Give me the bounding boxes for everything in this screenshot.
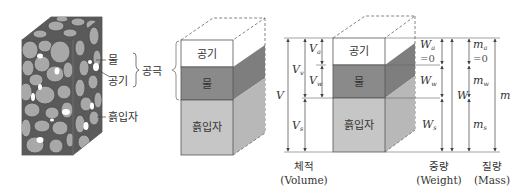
phase-diagram: 공기 물 흙입자 V Vv Va Vw Vs bbox=[276, 16, 510, 186]
volume-voids-symbol: Vv bbox=[292, 63, 304, 77]
weight-total-symbol: W bbox=[457, 89, 470, 102]
soil-sample-block bbox=[20, 16, 102, 155]
weight-caption-kr: 중량 bbox=[429, 160, 449, 172]
weight-air-value: =0 bbox=[420, 53, 435, 64]
label-air: 공기 bbox=[108, 75, 128, 88]
mass-caption-en: (Mass) bbox=[474, 174, 510, 186]
volume-total-symbol: V bbox=[276, 89, 285, 102]
diagram-solids-label: 흙입자 bbox=[344, 119, 374, 132]
volume-caption-en: (Volume) bbox=[280, 174, 327, 186]
weight-solids-symbol: Ws bbox=[422, 118, 437, 132]
label-water: 물 bbox=[108, 54, 118, 67]
pore-brace bbox=[133, 53, 139, 87]
mass-air-symbol: ma bbox=[473, 38, 487, 52]
diagram-air-label: 공기 bbox=[349, 45, 369, 58]
mass-air-value: =0 bbox=[473, 53, 488, 64]
weight-dimensions bbox=[442, 39, 452, 151]
weight-water-symbol: Ww bbox=[420, 74, 437, 88]
weight-caption-en: (Weight) bbox=[416, 174, 461, 186]
phase-block: 공기 물 흙입자 bbox=[181, 18, 265, 155]
volume-solids-symbol: Vs bbox=[292, 119, 304, 133]
weight-air-symbol: Wa bbox=[420, 38, 435, 52]
mass-water-symbol: mw bbox=[473, 74, 489, 88]
phase-solids-label: 흙입자 bbox=[192, 121, 222, 134]
volume-water-symbol: Vw bbox=[309, 74, 323, 88]
soil-phase-diagram: 물 공기 공극 흙입자 공기 물 흙입자 공기 물 흙 bbox=[0, 0, 519, 192]
mass-total-symbol: m bbox=[500, 89, 510, 102]
label-soil-particle: 흙입자 bbox=[108, 111, 138, 124]
volume-air-symbol: Va bbox=[309, 42, 321, 56]
label-pore: 공극 bbox=[142, 65, 162, 78]
phase-water-label: 물 bbox=[202, 78, 212, 91]
diagram-water-label: 물 bbox=[354, 76, 364, 89]
mass-solids-symbol: ms bbox=[473, 118, 487, 132]
pore-brace-large bbox=[172, 41, 179, 100]
phase-air-label: 공기 bbox=[197, 48, 217, 61]
soil-sample-labels: 물 공기 공극 흙입자 bbox=[96, 53, 162, 124]
mass-caption-kr: 질량 bbox=[482, 160, 502, 172]
volume-caption-kr: 체적 bbox=[294, 160, 314, 172]
